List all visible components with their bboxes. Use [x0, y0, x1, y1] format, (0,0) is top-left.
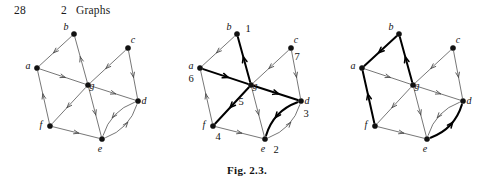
- edge-g-b-bold: [238, 37, 250, 81]
- edge-b-a: [40, 36, 72, 65]
- vertex-order-number-d: 3: [303, 108, 308, 119]
- vertex-e: e: [98, 136, 105, 154]
- edge-f-e: [216, 127, 261, 138]
- vertex-label-b: b: [227, 21, 232, 32]
- figure-panel-1: a6b1c7d3e2f4g5: [168, 18, 332, 163]
- page-root: 28 2 Graphs abcdefg a6b1c7d3e2f4g5 abcde…: [0, 0, 494, 187]
- vertex-a: a: [26, 60, 40, 71]
- edge-a-g-bold: [203, 69, 248, 84]
- vertex-order-number-b: 1: [245, 23, 250, 34]
- vertex-c: c7: [288, 34, 299, 62]
- vertex-label-d: d: [467, 95, 473, 106]
- panel-plain-digraph: abcdefg: [5, 18, 169, 163]
- edge-g-f: [377, 87, 410, 123]
- panel-numbered-digraph: a6b1c7d3e2f4g5: [168, 18, 332, 163]
- edge-a-g: [365, 69, 410, 84]
- edge-g-d: [91, 86, 135, 100]
- vertex-label-a: a: [351, 60, 356, 71]
- vertex-label-f: f: [40, 119, 44, 130]
- edge-g-f-bold: [215, 87, 248, 123]
- edge-c-g: [90, 50, 125, 82]
- edge-g-d-bold: [254, 86, 298, 100]
- vertex-label-d: d: [305, 95, 311, 106]
- vertex-label-b: b: [389, 21, 394, 32]
- edge-c-g: [253, 50, 288, 82]
- edge-c-d: [454, 51, 463, 97]
- vertex-d: d3: [298, 95, 310, 119]
- vertex-b: b: [389, 21, 402, 37]
- vertex-label-c: c: [294, 34, 299, 45]
- vertex-c: c: [450, 34, 460, 51]
- vertex-b: b1: [227, 21, 251, 37]
- vertex-label-b: b: [64, 21, 69, 32]
- edge-g-d: [416, 86, 460, 100]
- edge-c-d: [129, 51, 138, 97]
- edge-a-g: [40, 69, 85, 84]
- vertex-e: e2: [261, 136, 279, 155]
- vertex-label-e: e: [261, 143, 266, 154]
- edge-f-a: [201, 71, 213, 122]
- vertex-label-a: a: [189, 60, 194, 71]
- edge-g-b: [75, 37, 87, 81]
- edge-g-b-bold: [400, 37, 412, 81]
- vertex-c: c: [125, 34, 135, 51]
- vertex-label-g: g: [90, 80, 95, 91]
- vertex-a: a: [351, 60, 365, 71]
- edge-b-a-bold: [365, 36, 397, 65]
- edge-g-e: [252, 88, 264, 135]
- edge-f-a: [38, 71, 50, 122]
- vertex-order-number-a: 6: [188, 73, 193, 84]
- edge-f-e: [378, 127, 423, 138]
- vertex-label-d: d: [142, 95, 148, 106]
- vertex-label-e: e: [98, 143, 103, 154]
- vertex-a: a6: [188, 60, 202, 84]
- vertex-label-e: e: [423, 143, 428, 154]
- figure-panels: abcdefg a6b1c7d3e2f4g5 abcdefg: [0, 18, 494, 163]
- vertex-f: f: [40, 119, 53, 130]
- panel-spanning-tree-digraph: abcdefg: [330, 18, 494, 163]
- vertex-label-g: g: [415, 80, 420, 91]
- vertex-order-number-f: 4: [215, 131, 221, 142]
- edge-f-a-bold: [363, 71, 375, 122]
- edge-g-e: [414, 88, 426, 135]
- edge-g-f: [52, 87, 85, 123]
- vertex-label-c: c: [131, 34, 136, 45]
- figure-panel-2: abcdefg: [330, 18, 494, 163]
- edge-b-a: [203, 36, 235, 65]
- edge-g-e: [89, 88, 101, 135]
- vertex-label-c: c: [456, 34, 461, 45]
- figure-caption: Fig. 2.3.: [0, 164, 494, 176]
- figure-panel-0: abcdefg: [5, 18, 169, 163]
- vertex-order-number-g: 5: [238, 96, 243, 107]
- page-number: 28: [14, 4, 26, 16]
- chapter-number: 2: [61, 4, 67, 16]
- vertex-label-f: f: [365, 119, 369, 130]
- vertex-e: e: [423, 136, 430, 154]
- vertex-label-f: f: [203, 119, 207, 130]
- chapter-title: Graphs: [76, 4, 110, 16]
- vertex-b: b: [64, 21, 77, 37]
- vertex-order-number-e: 2: [273, 144, 278, 155]
- edge-c-g: [415, 50, 450, 82]
- vertex-f: f: [365, 119, 378, 130]
- vertex-label-g: g: [253, 80, 258, 91]
- vertex-order-number-c: 7: [294, 51, 299, 62]
- edge-f-e: [53, 127, 98, 138]
- vertex-label-a: a: [26, 60, 31, 71]
